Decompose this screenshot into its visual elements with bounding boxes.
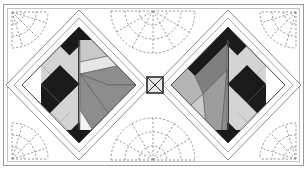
right-center-seam	[228, 27, 229, 143]
quilt-diagram-stage	[0, 0, 307, 170]
center-x-square	[147, 77, 163, 93]
left-center-seam	[78, 27, 79, 143]
quilt-diagram	[0, 0, 307, 170]
